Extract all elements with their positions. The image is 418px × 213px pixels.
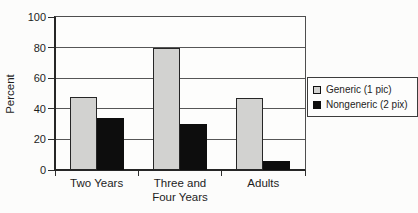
gridline-80 [56, 47, 305, 48]
y-tick-60 [48, 78, 54, 79]
bar-generic-2 [236, 98, 263, 170]
y-tick-0 [48, 170, 54, 171]
y-tick-20 [48, 139, 54, 140]
nongeneric-swatch-icon [313, 101, 321, 109]
y-axis-title: Percent [4, 44, 18, 144]
legend-item-nongeneric: Nongeneric (2 pix) [313, 99, 412, 110]
x-category-label-0: Two Years [51, 176, 143, 190]
bar-nongeneric-1 [180, 124, 207, 170]
legend-item-generic: Generic (1 pic) [313, 84, 412, 95]
bar-generic-1 [153, 48, 180, 170]
x-category-label-1: Three and Four Years [134, 176, 226, 204]
y-tick-label-60: 60 [16, 72, 46, 84]
gridline-60 [56, 78, 305, 79]
legend: Generic (1 pic) Nongeneric (2 pix) [307, 77, 418, 117]
x-category-label-2: Adults [217, 176, 309, 190]
legend-label-nongeneric: Nongeneric (2 pix) [326, 99, 408, 110]
bar-generic-0 [70, 97, 97, 170]
legend-label-generic: Generic (1 pic) [326, 84, 392, 95]
y-tick-100 [48, 17, 54, 18]
y-tick-80 [48, 47, 54, 48]
generic-swatch-icon [313, 86, 321, 94]
y-tick-label-80: 80 [16, 42, 46, 54]
y-tick-40 [48, 108, 54, 109]
bar-chart-figure: Percent 020406080100Two YearsThree and F… [0, 0, 418, 213]
y-tick-label-0: 0 [16, 164, 46, 176]
y-tick-label-20: 20 [16, 133, 46, 145]
y-tick-label-40: 40 [16, 103, 46, 115]
bar-nongeneric-2 [263, 161, 290, 170]
y-tick-label-100: 100 [16, 11, 46, 23]
bar-nongeneric-0 [97, 118, 124, 170]
